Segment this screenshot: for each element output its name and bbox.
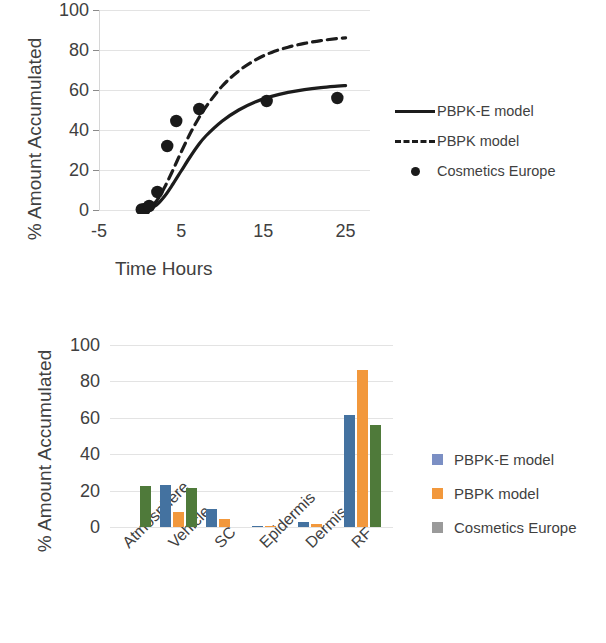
- orange-swatch-icon: [432, 488, 454, 499]
- blue-swatch-icon: [432, 454, 454, 465]
- bar: [219, 519, 230, 527]
- x-tick-label: -5: [69, 222, 129, 240]
- x-tick-label: 5: [151, 222, 211, 240]
- x-tick-label: RF: [348, 524, 376, 552]
- dashed-line-icon: [393, 140, 437, 143]
- line-chart-figure: % Amount Accumulated Time Hours 02040608…: [0, 0, 606, 300]
- legend-item-pbpk-model: PBPK model: [432, 476, 577, 510]
- scatter-point: [170, 115, 182, 127]
- legend-label: PBPK-E model: [437, 103, 534, 119]
- bar: [206, 509, 217, 527]
- y-tick-label: 80: [37, 41, 89, 59]
- legend-label: PBPK model: [437, 133, 519, 149]
- legend-label: PBPK-E model: [454, 451, 554, 468]
- y-tick-label: 60: [37, 81, 89, 99]
- y-tick-label: 80: [48, 372, 100, 390]
- bar: [265, 526, 276, 527]
- bar: [160, 485, 171, 527]
- y-tick-label: 20: [48, 482, 100, 500]
- bar: [311, 524, 322, 527]
- legend-item-pbpk-e-model: PBPK-E model: [393, 96, 555, 126]
- legend-item-cosmetics-europe: Cosmetics Europe: [393, 156, 555, 186]
- y-tick-label: 40: [37, 121, 89, 139]
- bar: [370, 425, 381, 527]
- bar: [173, 512, 184, 527]
- dot-marker-icon: [393, 167, 437, 176]
- scatter-point: [143, 200, 155, 212]
- y-tick-label: 20: [37, 161, 89, 179]
- y-tick-label: 60: [48, 409, 100, 427]
- solid-line-icon: [393, 110, 437, 113]
- bar-chart-figure: % Amount Accumulated 020406080100 Atmosp…: [0, 322, 606, 643]
- legend-item-pbpk-model: PBPK model: [393, 126, 555, 156]
- scatter-point: [331, 92, 343, 104]
- legend-label: Cosmetics Europe: [437, 163, 555, 179]
- bar: [140, 486, 151, 527]
- bar: [186, 488, 197, 527]
- bar: [344, 415, 355, 527]
- legend-label: Cosmetics Europe: [454, 519, 577, 536]
- line-chart-legend: PBPK-E model PBPK model Cosmetics Europe: [393, 96, 555, 186]
- line-chart-plot-area: [99, 10, 362, 214]
- bar: [252, 526, 263, 527]
- legend-item-cosmetics-europe: Cosmetics Europe: [432, 510, 577, 544]
- scatter-point: [161, 140, 173, 152]
- bar: [298, 522, 309, 527]
- scatter-point: [193, 103, 205, 115]
- y-tick-label: 100: [37, 1, 89, 19]
- bar-chart-plot-area: [110, 345, 385, 527]
- x-tick-label: 25: [316, 222, 376, 240]
- y-tick-label: 40: [48, 445, 100, 463]
- scatter-point: [151, 186, 163, 198]
- legend-item-pbpk-e-model: PBPK-E model: [432, 442, 577, 476]
- bar: [357, 370, 368, 527]
- x-tick-label: 15: [233, 222, 293, 240]
- y-tick-label: 0: [37, 201, 89, 219]
- scatter-point: [260, 95, 272, 107]
- y-tick-label: 0: [48, 518, 100, 536]
- gray-swatch-icon: [432, 522, 454, 533]
- y-tick-label: 100: [48, 336, 100, 354]
- legend-label: PBPK model: [454, 485, 539, 502]
- line-chart-x-axis-label: Time Hours: [115, 258, 212, 280]
- bar-chart-legend: PBPK-E model PBPK model Cosmetics Europe: [432, 442, 577, 544]
